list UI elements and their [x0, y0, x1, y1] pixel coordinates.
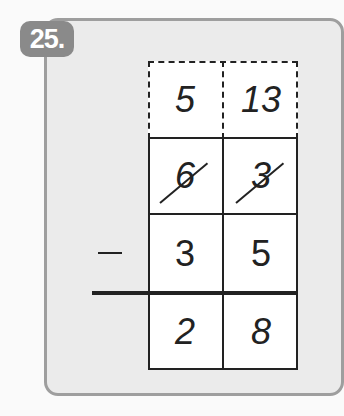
- difference-tens: 2: [148, 314, 222, 350]
- minuend-ones: 3: [224, 158, 298, 194]
- minus-sign-icon: [98, 252, 122, 254]
- borrow-tens: 5: [148, 82, 222, 118]
- subtrahend-tens: 3: [148, 236, 222, 272]
- difference-ones: 8: [224, 314, 298, 350]
- sum-rule-line: [92, 291, 298, 295]
- minuend-tens: 6: [148, 158, 222, 194]
- grid-row-divider: [148, 213, 298, 215]
- borrow-ones: 13: [224, 82, 298, 118]
- subtrahend-ones: 5: [224, 236, 298, 272]
- problem-number-badge: 25.: [20, 21, 74, 57]
